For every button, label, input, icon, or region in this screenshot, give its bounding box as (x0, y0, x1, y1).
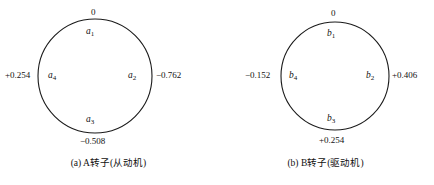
rotor-b-value-left: −0.152 (245, 71, 270, 80)
subfigure-a: a1 a2 a3 a4 0 −0.762 −0.508 +0.254 (a) A… (0, 0, 217, 185)
rotor-a-node-top-sub: 1 (91, 30, 95, 38)
rotor-b-node-left-sub: 4 (294, 74, 298, 82)
rotor-b-node-top: b1 (327, 29, 335, 40)
rotor-diagram-figure: a1 a2 a3 a4 0 −0.762 −0.508 +0.254 (a) A… (0, 0, 434, 185)
rotor-b-value-right: +0.406 (392, 71, 417, 80)
rotor-a-node-bottom-sub: 3 (91, 118, 95, 126)
rotor-b-node-left: b4 (289, 71, 297, 82)
rotor-b-node-top-sub: 1 (332, 32, 336, 40)
subfigure-a-caption: (a) A转子(从动机) (0, 158, 217, 169)
rotor-b-node-right-sub: 2 (371, 74, 375, 82)
rotor-a-node-left-sub: 4 (53, 74, 57, 82)
rotor-a-node-top: a1 (86, 27, 94, 38)
rotor-a-value-bottom: −0.508 (80, 137, 105, 146)
rotor-a-value-left: +0.254 (5, 71, 30, 80)
rotor-b-node-right: b2 (366, 71, 374, 82)
rotor-a-value-top: 0 (91, 8, 96, 17)
rotor-a-node-left: a4 (48, 71, 56, 82)
rotor-a-circle (0, 0, 217, 152)
rotor-b-value-bottom: +0.254 (319, 136, 344, 145)
subfigure-b: b1 b2 b3 b4 0 +0.406 +0.254 −0.152 (b) B… (217, 0, 434, 185)
rotor-b-node-bottom: b3 (327, 114, 335, 125)
rotor-a-node-right: a2 (128, 71, 136, 82)
rotor-b-value-top: 0 (331, 9, 336, 18)
rotor-a-node-right-sub: 2 (133, 74, 137, 82)
rotor-a-value-right: −0.762 (156, 71, 181, 80)
rotor-b-node-bottom-sub: 3 (332, 117, 336, 125)
rotor-b-diagram: b1 b2 b3 b4 0 +0.406 +0.254 −0.152 (217, 0, 434, 152)
subfigure-b-caption: (b) B转子(驱动机) (217, 158, 434, 169)
rotor-a-diagram: a1 a2 a3 a4 0 −0.762 −0.508 +0.254 (0, 0, 217, 152)
rotor-a-node-bottom: a3 (86, 115, 94, 126)
